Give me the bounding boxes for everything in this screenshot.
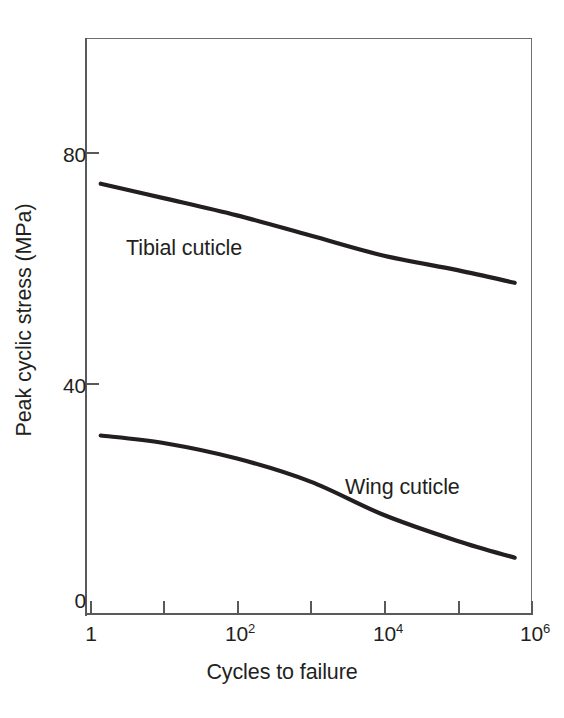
x-tick-label-1: 1: [85, 622, 96, 646]
y-tick-label-0: 0: [75, 589, 86, 613]
x-tick-label-1000000-base: 10: [520, 622, 543, 645]
series-label-tibial-cuticle: Tibial cuticle: [126, 236, 242, 261]
x-tick-label-1000000-exp: 6: [543, 621, 550, 636]
x-tick-label-10000-exp: 4: [396, 621, 403, 636]
x-axis-title: Cycles to failure: [0, 660, 564, 685]
x-tick-1000000: [531, 601, 533, 614]
series-label-wing-cuticle: Wing cuticle: [345, 475, 460, 500]
x-axis-line: [85, 613, 533, 615]
x-tick-label-1-base: 1: [85, 622, 96, 645]
y-tick-label-40: 40: [63, 374, 86, 398]
x-tick-label-10000-base: 10: [373, 622, 396, 645]
x-tick-1000: [310, 601, 312, 614]
plot-frame: [85, 38, 532, 615]
x-tick-label-100: 102: [225, 622, 255, 646]
y-axis-line: [85, 38, 87, 616]
x-tick-10: [163, 601, 165, 614]
y-tick-80: [86, 152, 99, 154]
x-tick-1: [90, 601, 92, 614]
y-tick-label-80: 80: [63, 143, 86, 167]
x-tick-label-100-exp: 2: [248, 621, 255, 636]
x-tick-100000: [458, 601, 460, 614]
x-tick-10000: [384, 601, 386, 614]
x-tick-100: [237, 601, 239, 614]
x-tick-label-10000: 104: [373, 622, 403, 646]
y-axis-title: Peak cyclic stress (MPa): [12, 170, 37, 470]
x-tick-label-1000000: 106: [520, 622, 550, 646]
figure-chart-fatigue-cuticle: 80 40 0 1 102 104 106 Cycles to failure …: [0, 0, 564, 718]
x-tick-label-100-base: 10: [225, 622, 248, 645]
y-tick-40: [86, 383, 99, 385]
